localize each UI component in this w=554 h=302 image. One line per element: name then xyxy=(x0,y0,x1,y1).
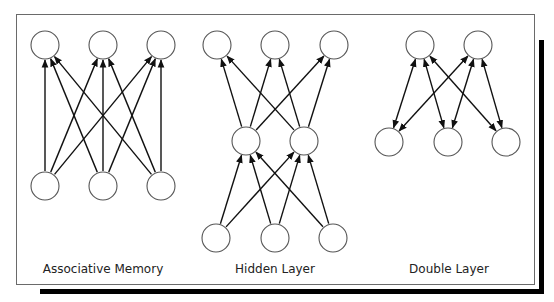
panel-hidden-layer xyxy=(202,31,348,252)
node-circle xyxy=(232,127,260,155)
node-circle xyxy=(89,172,117,200)
figure: Associative Memory Hidden Layer Double L… xyxy=(0,0,554,302)
node-circle xyxy=(261,31,289,59)
node-circle xyxy=(434,128,462,156)
node-circle xyxy=(319,224,347,252)
node-circle xyxy=(375,128,403,156)
label-double-layer: Double Layer xyxy=(409,262,489,276)
node-circle xyxy=(202,224,230,252)
node-circle xyxy=(290,127,318,155)
label-hidden-layer: Hidden Layer xyxy=(235,262,315,276)
panel-associative-memory xyxy=(31,31,175,200)
node-circle xyxy=(203,31,231,59)
edge-arrow xyxy=(227,56,294,130)
node-circle xyxy=(31,172,59,200)
node-circle xyxy=(261,224,289,252)
node-circle xyxy=(464,31,492,59)
panel-double-layer xyxy=(375,31,520,156)
node-circle xyxy=(492,128,520,156)
edge-arrow xyxy=(482,59,502,127)
node-circle xyxy=(147,172,175,200)
label-associative-memory: Associative Memory xyxy=(43,262,163,276)
network-diagrams xyxy=(0,0,554,302)
node-circle xyxy=(406,31,434,59)
node-circle xyxy=(89,31,117,59)
node-circle xyxy=(31,31,59,59)
edge-arrow xyxy=(256,152,323,227)
node-circle xyxy=(147,31,175,59)
node-circle xyxy=(320,31,348,59)
edge-arrow xyxy=(399,56,468,131)
